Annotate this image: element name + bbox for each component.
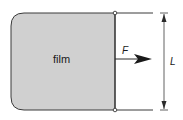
length-label: L — [170, 56, 176, 67]
force-label: F — [122, 45, 129, 56]
film-label: film — [53, 53, 70, 65]
dimension-arrow-down-icon — [162, 101, 167, 109]
wire-joint-top — [113, 11, 117, 15]
film-diagram: film F L — [0, 0, 183, 120]
dimension-arrow-up-icon — [162, 14, 167, 22]
wire-joint-bottom — [113, 108, 117, 112]
